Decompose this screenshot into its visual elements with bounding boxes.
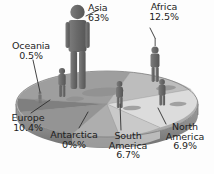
label-oceania-pct: 0.5%	[2, 51, 60, 61]
label-south-america: South America 6.7%	[100, 131, 156, 160]
label-africa: Africa 12.5%	[134, 2, 194, 21]
label-asia: Asia 63%	[88, 3, 109, 22]
label-antarctica: Antarctica 0%%	[42, 130, 106, 149]
leader-africa	[150, 28, 155, 38]
figure-africa	[151, 38, 160, 82]
label-south-america-pct: 6.7%	[100, 150, 156, 160]
label-asia-pct: 63%	[88, 13, 109, 23]
label-oceania: Oceania 0.5%	[2, 41, 60, 60]
population-pie-chart: Asia 63% Africa 12.5% Oceania 0.5% Europ…	[0, 0, 214, 174]
label-north-america: North America 6.9%	[156, 122, 214, 151]
label-antarctica-pct: 0%%	[42, 140, 106, 150]
label-north-america-pct: 6.9%	[156, 141, 214, 151]
label-africa-pct: 12.5%	[134, 12, 194, 22]
